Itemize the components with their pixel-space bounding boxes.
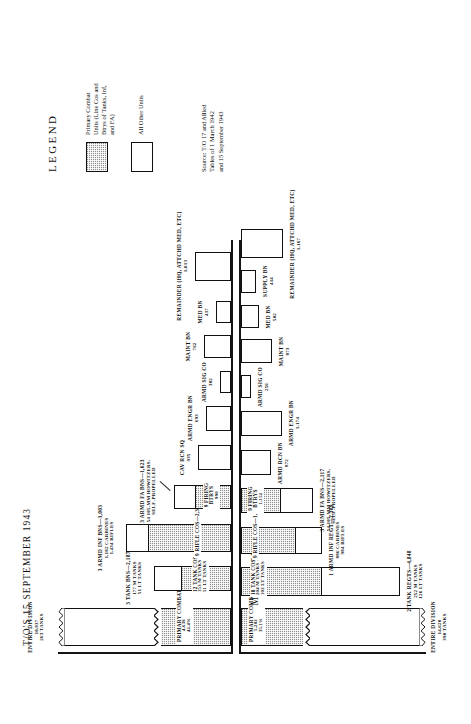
bar-entire-division-1943 bbox=[60, 608, 231, 646]
segment-break-marker-1943 bbox=[154, 608, 161, 646]
outlabel-note3: 984 RIFLES bbox=[340, 496, 345, 584]
outlabel-med-bn-1943: MED BN 417 bbox=[198, 288, 209, 336]
outlabel-note3: SELF-PROPELLED bbox=[151, 445, 156, 537]
outlabel-value: 414 bbox=[269, 254, 274, 308]
segment-rifle-cos-1943 bbox=[148, 525, 230, 551]
segment-break-marker-1942 bbox=[303, 608, 310, 646]
legend-label-all-other: All Other Units bbox=[137, 15, 145, 135]
inbar-label-rifle-cos-1942: 9 RIFLE COS—1,602 bbox=[252, 516, 259, 560]
bar-armd-rcn-bn-1942 bbox=[241, 450, 271, 475]
outlabel-entire-division-1942: ENTIRE DIVISION 14,620 390 TANKS bbox=[431, 577, 447, 677]
axis-vertical-1943 bbox=[58, 652, 231, 654]
outlabel-title: 3 ARMD INF BNS—3,003 bbox=[98, 495, 104, 581]
figure-canvas: T/O'S 15 SEPTEMBER 1943 T/O'S 1 MARCH 19… bbox=[0, 0, 471, 724]
axis-vertical-1942 bbox=[241, 652, 426, 654]
bar-armd-sig-co-1943 bbox=[220, 371, 231, 393]
outlabel-title: ARMD RCN BN bbox=[278, 434, 284, 492]
inbar-title: 9 RIFLE COS—2,339 bbox=[195, 516, 200, 556]
inbar-label-rifle-cos-1943: 9 RIFLE COS—2,339 bbox=[194, 514, 201, 558]
broken-axis-marker-top-1943 bbox=[58, 608, 65, 646]
inbar-value: 1,152 bbox=[259, 485, 264, 512]
outlabel-note3: 1,434 RIFLES bbox=[109, 495, 114, 581]
outlabel-value: 762 bbox=[192, 321, 197, 372]
legend-swatch-all-other bbox=[131, 142, 153, 172]
inbar-label-primary-combat-1943: PRIMARY COMBAT UNITS 4,638 42.4% bbox=[176, 606, 193, 644]
outlabel-tank-regts-1942: 2 TANK REGTS—4,848 252 M TANKS 126 LT TA… bbox=[407, 542, 423, 620]
outlabel-armd-sig-co-1943: ARMD SIG CO 302 bbox=[202, 353, 213, 411]
figure-inner: T/O'S 15 SEPTEMBER 1943 T/O'S 1 MARCH 19… bbox=[0, 0, 471, 724]
outlabel-value: 693 bbox=[194, 387, 199, 449]
bar-med-bn-1942 bbox=[241, 305, 259, 328]
outlabel-entire-division-1943: ENTIRE DIVISION 10,937 263 TANKS bbox=[28, 577, 44, 677]
segment-primary-combat-1943 bbox=[156, 609, 230, 645]
bar-armd-sig-co-1942 bbox=[241, 375, 251, 398]
outlabel-armd-inf-bns-1943: 3 ARMD INF BNS—3,003 1,182 CARBINES 1,43… bbox=[98, 495, 114, 581]
segment-rifle-cos-1942 bbox=[242, 528, 296, 553]
inbar-note: 42.4% bbox=[187, 608, 192, 642]
inbar-note: 35.1% bbox=[259, 608, 264, 642]
bar-maint-bn-1943 bbox=[204, 335, 231, 358]
outlabel-value: 302 bbox=[208, 353, 213, 411]
source-note: Source: T/O 17 and Allied Tables of 1 Ma… bbox=[200, 22, 225, 172]
bar-med-bn-1943 bbox=[216, 301, 231, 323]
outlabel-title: 2 TANK REGTS—4,848 bbox=[407, 542, 413, 620]
bar-maint-bn-1942 bbox=[241, 339, 272, 363]
legend-title: LEGEND bbox=[46, 114, 58, 172]
inbar-label-tank-cos-1943: 12 TANK COS—1,389 153 M TANKS 51 LT TANK… bbox=[192, 559, 209, 594]
outlabel-remainder-1943: REMAINDER (HQ, ATTCHD MED, ETC) 1,013 bbox=[177, 183, 188, 349]
inbar-label-firing-btrys-1942: 9 FIRING BTRYS 1,152 bbox=[247, 483, 264, 514]
legend-label-primary-combat: Primary Combat Units (Line Cos and Btrys… bbox=[84, 15, 116, 135]
bar-cav-rcn-sq-1943 bbox=[198, 445, 231, 470]
outlabel-note: 263 TANKS bbox=[39, 577, 44, 677]
outlabel-armd-engr-bn-1943: ARMD ENGR BN 693 bbox=[188, 387, 199, 449]
bar-supply-bn-1942 bbox=[241, 270, 256, 293]
bar-remainder-1943 bbox=[195, 252, 231, 281]
outlabel-note3: SELF-PROPELLED bbox=[331, 454, 336, 546]
inbar-label-tank-cos-1942: 18 TANK COS—2,448 204 M TANKS 102 LT TAN… bbox=[250, 562, 267, 597]
outlabel-value: 1,174 bbox=[295, 392, 300, 454]
outlabel-armd-sig-co-1942: ARMD SIG CO 256 bbox=[258, 358, 269, 416]
outlabel-note3: 126 LT TANKS bbox=[418, 542, 423, 620]
outlabel-value: 417 bbox=[204, 288, 209, 336]
outlabel-armd-fa-bns-1942: 3 ARMD FA BNS—2,117 54 105-MM HOWITZERS,… bbox=[320, 454, 336, 546]
outlabel-armd-engr-bn-1942: ARMD ENGR BN 1,174 bbox=[289, 392, 300, 454]
inbar-title: 9 RIFLE COS—1,602 bbox=[253, 518, 258, 558]
inbar-note3: 51 LT TANKS bbox=[203, 561, 208, 592]
outlabel-value: 873 bbox=[285, 326, 290, 377]
outlabel-supply-bn-1942: SUPPLY BN 414 bbox=[263, 254, 274, 308]
inbar-label-primary-combat-1942: PRIMARY COMBAT UNITS 5,202 35.1% bbox=[248, 606, 265, 644]
outlabel-maint-bn-1942: MAINT BN 873 bbox=[279, 326, 290, 377]
outlabel-armd-fa-bns-1943: 3 ARMD FA BNS—1,623 54 105-MM HOWITZERS,… bbox=[140, 445, 156, 537]
outlabel-title: ARMD ENGR BN bbox=[188, 387, 194, 449]
outlabel-note: 390 TANKS bbox=[442, 577, 447, 677]
outlabel-value: 256 bbox=[264, 358, 269, 416]
axis-baseline-1943 bbox=[231, 240, 233, 654]
outlabel-remainder-1942: REMAINDER (HQ, ATTCHD MED, ETC) 1,167 bbox=[290, 161, 301, 327]
bar-entire-division-1942 bbox=[241, 608, 424, 646]
legend-swatch-primary-combat bbox=[86, 142, 108, 172]
inbar-value: 990 bbox=[215, 482, 220, 508]
leader-line-fa-1943 bbox=[160, 481, 171, 491]
outlabel-value: 1,013 bbox=[183, 183, 188, 349]
bar-remainder-1942 bbox=[241, 229, 283, 258]
outlabel-value: 1,167 bbox=[296, 161, 301, 327]
outlabel-title: ARMD ENGR BN bbox=[289, 392, 295, 454]
inbar-label-firing-btrys-1943: 9 FIRING BTRYS 990 bbox=[203, 480, 220, 510]
inbar-note3: 102 LT TANKS bbox=[261, 564, 266, 595]
